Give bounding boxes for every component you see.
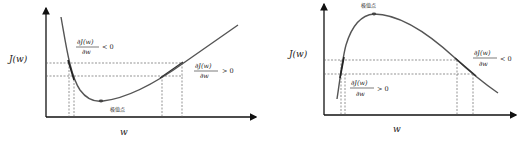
right-annotation-negative: ∂J(w) ∂w < 0 (473, 49, 512, 68)
right-dashed-guides (324, 60, 474, 115)
left-annotation-negative: ∂J(w) ∂w < 0 (76, 38, 114, 56)
svg-text:∂J(w): ∂J(w) (195, 62, 212, 70)
right-maximum-point (372, 13, 376, 16)
svg-text:∂J(w): ∂J(w) (77, 38, 94, 46)
svg-text:∂w: ∂w (356, 90, 365, 98)
left-minimum-point (99, 100, 103, 103)
svg-text:> 0: > 0 (377, 85, 389, 93)
svg-text:∂J(w): ∂J(w) (351, 79, 368, 87)
left-y-label: J(w) (7, 54, 28, 64)
svg-text:∂w: ∂w (82, 48, 91, 56)
right-x-label: w (393, 124, 401, 134)
right-extremum-label: 极值点 (361, 2, 376, 9)
svg-text:< 0: < 0 (102, 43, 114, 51)
right-annotation-positive: ∂J(w) ∂w > 0 (350, 79, 389, 98)
svg-text:∂J(w): ∂J(w) (474, 49, 491, 57)
right-y-label: J(w) (287, 49, 308, 59)
left-annotation-positive: ∂J(w) ∂w > 0 (194, 62, 234, 80)
left-extremum-label: 极值点 (110, 106, 125, 113)
svg-text:> 0: > 0 (222, 67, 234, 75)
left-convex-curve (61, 17, 238, 101)
left-x-label: w (120, 127, 128, 137)
svg-text:∂w: ∂w (479, 60, 488, 68)
left-panel: 极值点 J(w) w ∂J(w) ∂w < 0 ∂J(w) ∂w > 0 (7, 8, 256, 137)
svg-text:∂w: ∂w (200, 72, 209, 80)
gradient-diagram: 极值点 J(w) w ∂J(w) ∂w < 0 ∂J(w) ∂w > 0 (0, 0, 521, 147)
svg-text:< 0: < 0 (500, 55, 512, 63)
right-panel: 极值点 J(w) w ∂J(w) ∂w > 0 ∂J(w) ∂w < 0 (287, 2, 516, 134)
